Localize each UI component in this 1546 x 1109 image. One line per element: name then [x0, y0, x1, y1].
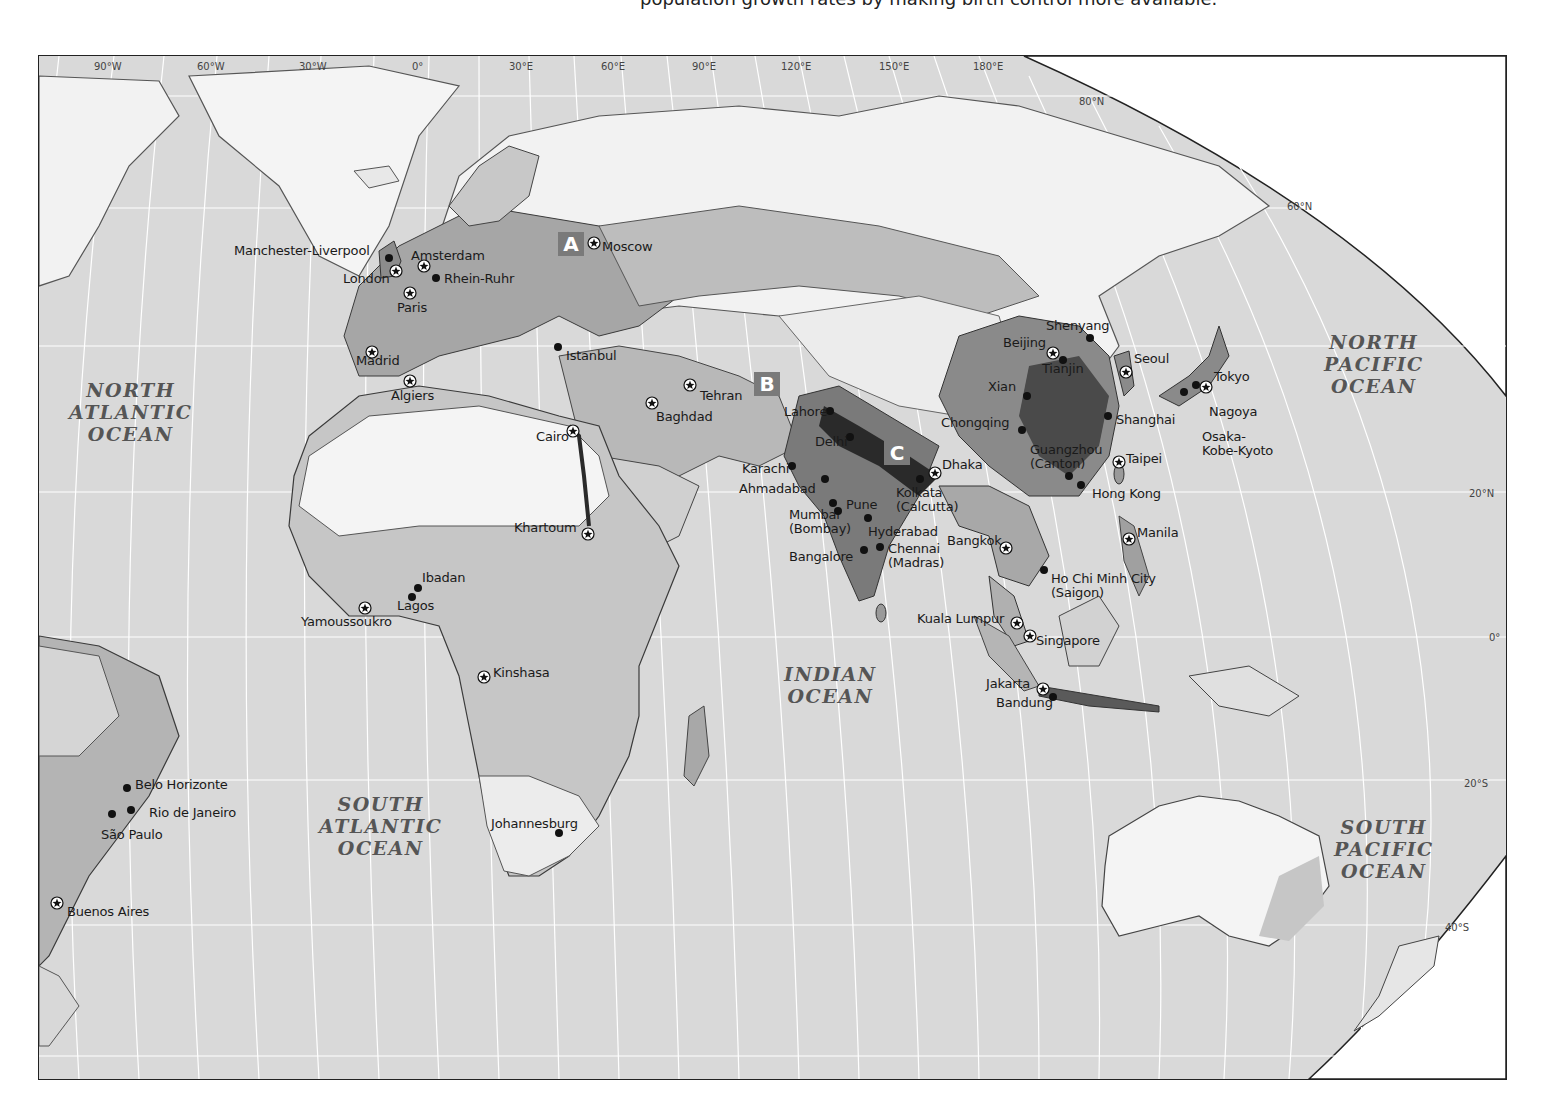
- city-label: Rhein-Ruhr: [444, 272, 514, 286]
- city-label: Nagoya: [1209, 405, 1257, 419]
- region-marker-b: B: [754, 372, 780, 396]
- city-label: Rio de Janeiro: [149, 806, 236, 820]
- city-label: Karachi: [742, 462, 789, 476]
- city-label: Beijing: [1003, 336, 1046, 350]
- map-caption: population growth rates by making birth …: [640, 0, 1217, 9]
- ocean-label: NORTH ATLANTIC OCEAN: [69, 379, 192, 445]
- city-dot-icon: [550, 339, 566, 355]
- city-label: Belo Horizonte: [135, 778, 228, 792]
- map-canvas: [39, 56, 1506, 1079]
- capital-star-icon: [402, 373, 418, 389]
- city-label: Delhi: [815, 435, 847, 449]
- city-label: Shanghai: [1116, 413, 1175, 427]
- city-label: Kinshasa: [493, 666, 550, 680]
- capital-star-icon: [402, 285, 418, 301]
- longitude-label: 150°E: [879, 61, 909, 72]
- longitude-label: 90°W: [94, 61, 122, 72]
- capital-star-icon: [1121, 531, 1137, 547]
- city-dot-icon: [872, 539, 888, 555]
- city-label: Bangalore: [789, 550, 853, 564]
- city-label: Kolkata (Calcutta): [896, 486, 958, 514]
- city-label: Moscow: [602, 240, 652, 254]
- city-label: Ho Chi Minh City (Saigon): [1051, 572, 1156, 600]
- city-label: Istanbul: [566, 349, 616, 363]
- city-dot-icon: [1073, 477, 1089, 493]
- latitude-label: 60°N: [1287, 201, 1312, 212]
- city-dot-icon: [1019, 388, 1035, 404]
- city-label: Hyderabad: [868, 525, 938, 539]
- city-label: Lagos: [397, 599, 434, 613]
- capital-star-icon: [580, 526, 596, 542]
- city-dot-icon: [428, 270, 444, 286]
- city-dot-icon: [104, 806, 120, 822]
- city-label: Johannesburg: [491, 817, 578, 831]
- latitude-label: 0°: [1489, 632, 1500, 643]
- capital-star-icon: [1111, 454, 1127, 470]
- city-label: São Paulo: [101, 828, 163, 842]
- city-dot-icon: [1100, 408, 1116, 424]
- city-label: Chongqing: [941, 416, 1009, 430]
- capital-star-icon: [682, 377, 698, 393]
- longitude-label: 120°E: [781, 61, 811, 72]
- city-label: Manila: [1137, 526, 1178, 540]
- capital-star-icon: [476, 669, 492, 685]
- longitude-label: 30°W: [299, 61, 327, 72]
- city-label: Ibadan: [422, 571, 465, 585]
- capital-star-icon: [586, 235, 602, 251]
- city-label: Tokyo: [1214, 370, 1249, 384]
- city-label: Dhaka: [942, 458, 982, 472]
- longitude-label: 60°W: [197, 61, 225, 72]
- city-label: Shenyang: [1046, 319, 1109, 333]
- city-label: London: [343, 272, 389, 286]
- city-label: Cairo: [536, 430, 569, 444]
- population-density-map: 90°W60°W30°W0°30°E60°E90°E120°E150°E180°…: [38, 55, 1507, 1080]
- latitude-label: 80°N: [1079, 96, 1104, 107]
- city-dot-icon: [1014, 422, 1030, 438]
- city-label: Madrid: [356, 354, 399, 368]
- capital-star-icon: [1118, 364, 1134, 380]
- ocean-label: INDIAN OCEAN: [784, 663, 877, 707]
- ocean-label: SOUTH PACIFIC OCEAN: [1334, 816, 1434, 882]
- city-label: Manchester-Liverpool: [234, 244, 370, 258]
- city-label: Ahmadabad: [739, 482, 816, 496]
- city-dot-icon: [830, 503, 846, 519]
- capital-star-icon: [927, 465, 943, 481]
- city-label: Yamoussoukro: [301, 615, 392, 629]
- city-label: Guangzhou (Canton): [1030, 443, 1102, 471]
- latitude-label: 20°N: [1469, 488, 1494, 499]
- city-label: Paris: [397, 301, 427, 315]
- region-marker-c: C: [884, 441, 910, 465]
- city-label: Baghdad: [656, 410, 712, 424]
- city-label: Lahore: [784, 405, 827, 419]
- city-label: Khartoum: [514, 521, 576, 535]
- city-label: Chennai (Madras): [888, 542, 944, 570]
- city-dot-icon: [1036, 562, 1052, 578]
- city-label: Seoul: [1134, 352, 1169, 366]
- city-label: Jakarta: [986, 677, 1030, 691]
- capital-star-icon: [388, 263, 404, 279]
- city-dot-icon: [856, 542, 872, 558]
- latitude-label: 40°S: [1445, 922, 1469, 933]
- city-label: Bangkok: [947, 534, 1002, 548]
- city-dot-icon: [817, 471, 833, 487]
- city-label: Tianjin: [1042, 362, 1083, 376]
- city-label: Xian: [988, 380, 1016, 394]
- city-label: Buenos Aires: [67, 905, 149, 919]
- city-dot-icon: [123, 802, 139, 818]
- city-label: Tehran: [700, 389, 742, 403]
- city-label: Bandung: [996, 696, 1053, 710]
- city-label: Osaka- Kobe-Kyoto: [1202, 430, 1273, 458]
- city-label: Kuala Lumpur: [917, 612, 1004, 626]
- longitude-label: 60°E: [601, 61, 625, 72]
- longitude-label: 0°: [412, 61, 423, 72]
- city-label: Singapore: [1036, 634, 1100, 648]
- city-label: Taipei: [1126, 452, 1162, 466]
- region-marker-a: A: [558, 232, 584, 256]
- longitude-label: 30°E: [509, 61, 533, 72]
- city-label: Hong Kong: [1092, 487, 1161, 501]
- longitude-label: 90°E: [692, 61, 716, 72]
- latitude-label: 20°S: [1464, 778, 1488, 789]
- city-label: Algiers: [391, 389, 434, 403]
- city-label: Amsterdam: [411, 249, 485, 263]
- city-dot-icon: [119, 780, 135, 796]
